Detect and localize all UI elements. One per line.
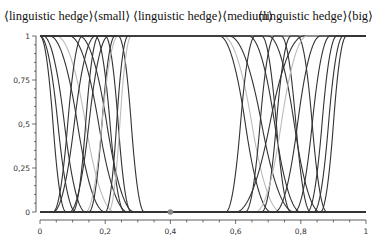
x-tick-label: 0,8	[295, 227, 307, 236]
membership-function-chart: ⟨linguistic hedge⟩⟨small⟩ ⟨linguistic he…	[0, 0, 382, 243]
y-tick-label: 1	[25, 32, 30, 41]
y-tick-label: 0,75	[13, 76, 30, 85]
header-big: ⟨linguistic hedge⟩⟨big⟩	[258, 9, 373, 23]
marker-dot	[168, 209, 174, 215]
y-tick-label: 0,25	[13, 164, 30, 173]
x-tick-label: 1	[364, 227, 369, 236]
curve-small-12	[40, 36, 366, 212]
y-tick-label: 0,5	[18, 120, 30, 129]
point-marker	[168, 209, 174, 215]
header-labels: ⟨linguistic hedge⟩⟨small⟩ ⟨linguistic he…	[4, 9, 373, 23]
x-tick-label: 0,6	[230, 227, 242, 236]
x-tick-label: 0	[38, 227, 43, 236]
x-tick-label: 0,4	[164, 227, 176, 236]
header-medium: ⟨linguistic hedge⟩⟨medium⟩	[133, 9, 273, 23]
header-small: ⟨linguistic hedge⟩⟨small⟩	[4, 9, 130, 23]
y-tick-label: 0	[25, 208, 30, 217]
curves	[40, 36, 366, 212]
x-tick-label: 0,2	[99, 227, 111, 236]
